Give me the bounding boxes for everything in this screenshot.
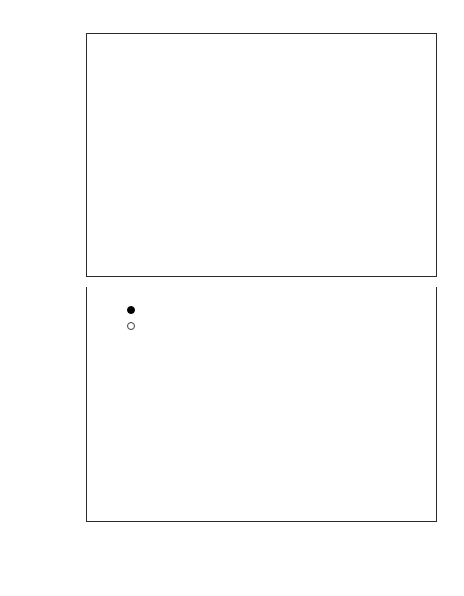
legend-marker-open-circle-icon [114,318,148,334]
legend [114,302,148,334]
scatter-figure [0,0,464,596]
legend-entry-3-layers [114,302,148,318]
top-panel-plot-area [86,33,437,277]
legend-marker-filled-circle-icon [114,302,148,318]
legend-entry-4-layers [114,318,148,334]
